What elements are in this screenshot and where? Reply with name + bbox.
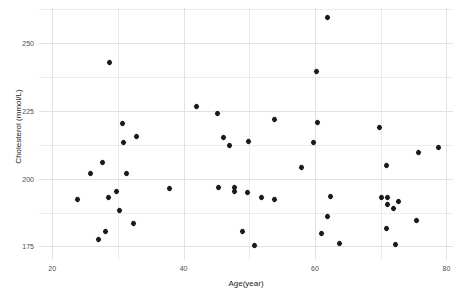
data-point bbox=[298, 164, 305, 171]
x-tick-label: 80 bbox=[443, 265, 451, 272]
data-point bbox=[415, 149, 422, 156]
gridline-vertical-major bbox=[315, 8, 316, 260]
scatter-chart: 175200225250 20406080 Age(year) Choleste… bbox=[0, 0, 462, 302]
y-tick-label: 200 bbox=[22, 175, 34, 182]
data-point bbox=[215, 184, 222, 191]
gridline-horizontal-minor bbox=[39, 145, 453, 146]
data-point bbox=[104, 194, 111, 201]
data-point bbox=[313, 68, 320, 75]
x-tick-label: 20 bbox=[48, 265, 56, 272]
data-point bbox=[413, 217, 420, 224]
data-point bbox=[318, 230, 325, 237]
gridline-vertical-minor bbox=[249, 8, 250, 260]
data-point bbox=[324, 14, 331, 21]
gridline-horizontal-major bbox=[39, 246, 453, 247]
data-point bbox=[324, 213, 331, 220]
x-axis-ticks: 20406080 bbox=[39, 265, 453, 277]
plot-panel bbox=[39, 8, 453, 260]
data-point bbox=[239, 228, 246, 235]
data-point bbox=[251, 242, 258, 249]
x-axis-label: Age(year) bbox=[39, 279, 453, 288]
data-point bbox=[383, 162, 390, 169]
data-point bbox=[226, 142, 233, 149]
data-point bbox=[113, 188, 120, 195]
data-point bbox=[99, 159, 106, 166]
data-point bbox=[74, 195, 81, 202]
gridline-vertical-minor bbox=[118, 8, 119, 260]
data-point bbox=[383, 225, 390, 232]
data-point bbox=[220, 134, 227, 141]
data-point bbox=[327, 193, 334, 200]
y-tick-label: 250 bbox=[22, 40, 34, 47]
data-point bbox=[245, 137, 252, 144]
gridline-horizontal-minor bbox=[39, 9, 453, 10]
data-point bbox=[390, 205, 397, 212]
x-tick-label: 60 bbox=[311, 265, 319, 272]
data-point bbox=[133, 133, 140, 140]
gridline-vertical-minor bbox=[381, 8, 382, 260]
y-tick-label: 225 bbox=[22, 107, 34, 114]
data-point bbox=[244, 189, 251, 196]
y-tick-label: 175 bbox=[22, 243, 34, 250]
data-point bbox=[130, 220, 137, 227]
gridline-vertical-major bbox=[52, 8, 53, 260]
data-point bbox=[395, 198, 402, 205]
gridline-horizontal-major bbox=[39, 111, 453, 112]
gridline-vertical-major bbox=[446, 8, 447, 260]
data-point bbox=[119, 120, 126, 127]
data-point bbox=[166, 185, 173, 192]
data-point bbox=[123, 170, 130, 177]
data-point bbox=[376, 124, 383, 131]
data-point bbox=[271, 195, 278, 202]
data-point bbox=[193, 103, 200, 110]
gridline-horizontal-major bbox=[39, 179, 453, 180]
gridline-horizontal-minor bbox=[39, 77, 453, 78]
data-point bbox=[102, 228, 109, 235]
gridline-horizontal-minor bbox=[39, 213, 453, 214]
y-axis-label: Cholesterol (mmol/L) bbox=[14, 57, 23, 197]
data-point bbox=[95, 236, 102, 243]
data-point bbox=[231, 188, 238, 195]
data-point bbox=[384, 194, 391, 201]
gridline-horizontal-major bbox=[39, 43, 453, 44]
x-tick-label: 40 bbox=[180, 265, 188, 272]
data-point bbox=[258, 194, 265, 201]
data-point bbox=[271, 116, 278, 123]
data-point bbox=[87, 170, 94, 177]
data-point bbox=[106, 59, 113, 66]
gridline-vertical-major bbox=[184, 8, 185, 260]
